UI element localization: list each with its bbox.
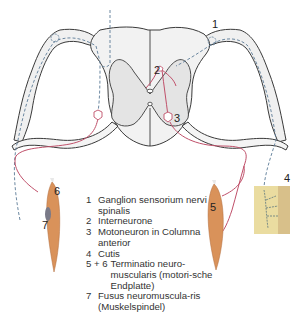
label-4: 4 — [284, 172, 290, 184]
label-7: 7 — [42, 219, 48, 231]
legend: 1 Ganglion sensorium nervi spinalis 2 In… — [86, 195, 226, 313]
label-1: 1 — [212, 18, 218, 30]
label-3: 3 — [174, 112, 180, 124]
legend-key: 5 + 6 — [86, 259, 108, 291]
legend-key: 3 — [86, 227, 98, 248]
label-2: 2 — [154, 64, 160, 76]
label-6: 6 — [54, 185, 60, 197]
legend-key: 1 — [86, 195, 98, 216]
skin-sample — [254, 186, 290, 234]
legend-text: Fusus neuromuscula-ris (Muskelspindel) — [98, 291, 226, 312]
legend-item: 5 + 6 Terminatio neuro-muscularis (motor… — [86, 259, 226, 291]
legend-item: 1 Ganglion sensorium nervi spinalis — [86, 195, 226, 216]
left-motoneuron — [94, 110, 102, 120]
spinal-cord — [12, 27, 288, 150]
legend-key: 7 — [86, 291, 98, 312]
legend-text: Ganglion sensorium nervi spinalis — [98, 195, 226, 216]
legend-text: Terminatio neuro-muscularis (motori-sche… — [111, 259, 226, 291]
right-nerve-root — [200, 29, 286, 142]
legend-item: 3 Motoneuron in Columna anterior — [86, 227, 226, 248]
left-nerve-root — [14, 29, 100, 142]
central-canal — [147, 89, 153, 93]
legend-item: 7 Fusus neuromuscula-ris (Muskelspindel) — [86, 291, 226, 312]
left-motor-fiber — [15, 118, 98, 192]
central-canal-lower — [148, 102, 152, 106]
legend-text: Motoneuron in Columna anterior — [98, 227, 226, 248]
right-motor-branch — [222, 166, 244, 196]
